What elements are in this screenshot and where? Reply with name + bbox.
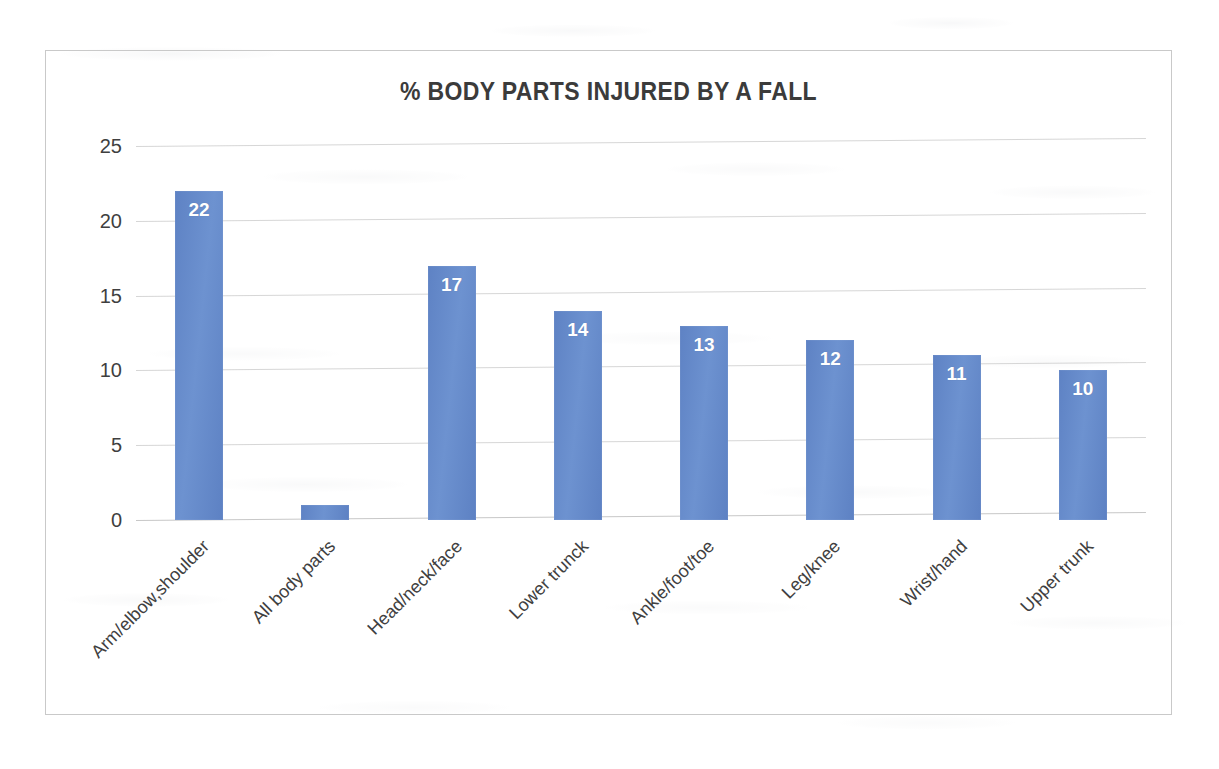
- chart-frame: % BODY PARTS INJURED BY A FALL 051015202…: [45, 50, 1172, 715]
- bar[interactable]: [301, 505, 349, 520]
- bar[interactable]: 17: [428, 266, 476, 520]
- bar-value-label: 22: [189, 199, 210, 221]
- bar[interactable]: 11: [933, 355, 981, 520]
- bar-group: 14Lower trunck: [515, 146, 641, 520]
- bar-value-label: 10: [1072, 378, 1093, 400]
- chart-title: % BODY PARTS INJURED BY A FALL: [91, 77, 1126, 106]
- bar-group: All body parts: [262, 146, 388, 520]
- bar-value-label: 11: [947, 363, 967, 385]
- plot-area: 0510152025 22Arm/elbow,shoulderAll body …: [136, 146, 1146, 520]
- y-axis-tick-label: 20: [100, 209, 122, 232]
- bar-value-label: 12: [820, 348, 841, 370]
- bar-series: 22Arm/elbow,shoulderAll body parts17Head…: [136, 146, 1146, 520]
- bar[interactable]: 10: [1059, 370, 1107, 520]
- bar[interactable]: 12: [806, 340, 854, 520]
- x-axis-category-label: Lower trunck: [505, 536, 593, 624]
- bar[interactable]: 14: [554, 311, 602, 520]
- bar-value-label: 14: [567, 319, 588, 341]
- bar-group: 17Head/neck/face: [389, 146, 515, 520]
- bar-group: 12Leg/knee: [767, 146, 893, 520]
- bar-group: 10Upper trunk: [1020, 146, 1146, 520]
- bar[interactable]: 13: [680, 326, 728, 520]
- x-axis-category-label: Ankle/foot/toe: [626, 536, 719, 629]
- y-axis-tick-label: 5: [111, 434, 122, 457]
- x-axis-category-label: Head/neck/face: [363, 536, 466, 639]
- bar-group: 13Ankle/foot/toe: [641, 146, 767, 520]
- x-axis-category-label: Wrist/hand: [896, 536, 971, 611]
- y-axis-tick-label: 10: [100, 359, 122, 382]
- x-axis-category-label: Arm/elbow,shoulder: [87, 536, 214, 663]
- bar-group: 11Wrist/hand: [894, 146, 1020, 520]
- bar[interactable]: 22: [175, 191, 223, 520]
- x-axis-category-label: Leg/knee: [778, 536, 845, 603]
- y-axis-tick-label: 25: [100, 135, 122, 158]
- x-axis-category-label: All body parts: [248, 536, 340, 628]
- bar-value-label: 17: [441, 274, 462, 296]
- bar-group: 22Arm/elbow,shoulder: [136, 146, 262, 520]
- y-axis-tick-label: 0: [111, 509, 122, 532]
- y-axis-tick-label: 15: [100, 284, 122, 307]
- bar-value-label: 13: [694, 334, 715, 356]
- x-axis-category-label: Upper trunk: [1016, 536, 1097, 617]
